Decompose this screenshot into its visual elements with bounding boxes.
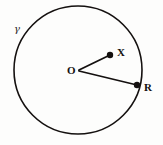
label-point-r: R xyxy=(144,81,153,93)
circle-geometry-diagram: γ O X R xyxy=(0,0,163,145)
label-center-o: O xyxy=(67,64,76,76)
point-dot-x xyxy=(107,52,113,58)
circle-gamma xyxy=(14,6,142,134)
segment-o-to-r xyxy=(79,71,137,85)
geometry-canvas: γ O X R xyxy=(0,0,163,145)
label-gamma: γ xyxy=(14,23,20,34)
point-dot-r xyxy=(134,82,140,88)
segment-o-to-x xyxy=(79,55,110,70)
label-point-x: X xyxy=(117,46,125,58)
